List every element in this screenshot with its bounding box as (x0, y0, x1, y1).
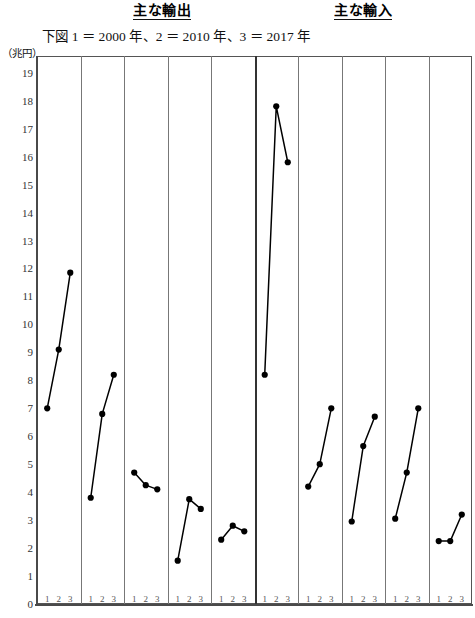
x-tick-label: 1 (393, 594, 398, 604)
x-tick-label: 3 (199, 594, 204, 604)
x-tick-label: 1 (306, 594, 311, 604)
x-tick-label: 2 (274, 594, 279, 604)
x-tick-label: 1 (45, 594, 50, 604)
x-tick-label: 2 (187, 594, 192, 604)
chart-page: 主な輸出 主な輸入 下図 1 ＝ 2000 年、2 ＝ 2010 年、3 ＝ 2… (0, 0, 475, 618)
x-tick-label: 1 (262, 594, 267, 604)
x-tick-label: 2 (231, 594, 236, 604)
x-tick-label: 1 (219, 594, 224, 604)
x-tick-label: 1 (436, 594, 441, 604)
x-tick-label: 1 (175, 594, 180, 604)
x-tick-label: 2 (144, 594, 149, 604)
x-tick-label: 3 (155, 594, 160, 604)
x-axis-tick-labels: 123123123123123123123123123123 (0, 0, 475, 618)
x-tick-label: 3 (112, 594, 117, 604)
x-tick-label: 1 (349, 594, 354, 604)
x-tick-label: 3 (460, 594, 465, 604)
x-tick-label: 3 (416, 594, 421, 604)
x-tick-label: 3 (286, 594, 291, 604)
x-tick-label: 3 (329, 594, 334, 604)
x-tick-label: 2 (318, 594, 323, 604)
x-tick-label: 1 (132, 594, 137, 604)
x-tick-label: 3 (68, 594, 73, 604)
x-tick-label: 2 (448, 594, 453, 604)
x-tick-label: 2 (405, 594, 410, 604)
x-tick-label: 3 (373, 594, 378, 604)
x-tick-label: 1 (88, 594, 93, 604)
x-tick-label: 2 (100, 594, 105, 604)
x-tick-label: 2 (361, 594, 366, 604)
x-tick-label: 2 (57, 594, 62, 604)
x-tick-label: 3 (242, 594, 247, 604)
